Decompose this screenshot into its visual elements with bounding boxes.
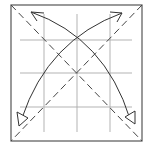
origami-diagram xyxy=(0,0,149,152)
